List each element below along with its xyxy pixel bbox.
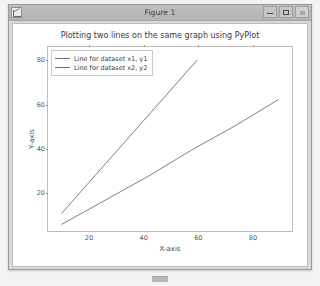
x-axis-tick-mark (253, 45, 254, 47)
legend-line-swatch-2 (55, 67, 70, 68)
legend-line-swatch-1 (55, 58, 70, 59)
window-controls (263, 6, 309, 18)
x-axis-tick-mark (198, 45, 199, 47)
x-axis-tick-label: 40 (140, 234, 148, 242)
legend-label-1: Line for dataset x1, y1 (74, 55, 147, 63)
x-axis-tick-mark (144, 45, 145, 47)
minimize-button[interactable] (263, 6, 277, 18)
legend-label-2: Line for dataset x2, y2 (74, 64, 147, 72)
y-axis-tick-label: 20 (37, 189, 45, 197)
x-axis-tick-label: 80 (249, 234, 257, 242)
x-axis-tick-label: 60 (194, 234, 202, 242)
y-axis-label: Y-axis (28, 129, 36, 149)
chart-title: Plotting two lines on the same graph usi… (13, 31, 307, 40)
y-axis-tick-label: 40 (37, 145, 45, 153)
figure-canvas: Plotting two lines on the same graph usi… (12, 23, 308, 267)
window-titlebar[interactable]: Figure 1 (9, 5, 311, 21)
chart-legend: Line for dataset x1, y1 Line for dataset… (51, 50, 153, 76)
close-button[interactable] (295, 6, 309, 18)
figure-window: Figure 1 Plotting two lines on the same … (8, 4, 312, 270)
x-axis-tick-label: 20 (85, 234, 93, 242)
x-axis-tick-mark (89, 45, 90, 47)
legend-item: Line for dataset x2, y2 (55, 63, 147, 72)
desktop-background: Figure 1 Plotting two lines on the same … (0, 0, 320, 286)
legend-item: Line for dataset x1, y1 (55, 54, 147, 63)
data-line-1 (62, 60, 198, 213)
y-axis-tick-mark (46, 60, 48, 61)
figure-taskbar-entry[interactable] (152, 276, 168, 282)
y-axis-tick-label: 80 (37, 56, 45, 64)
y-axis-tick-mark (46, 149, 48, 150)
data-line-2 (62, 100, 279, 225)
y-axis-tick-label: 60 (37, 101, 45, 109)
maximize-button[interactable] (279, 6, 293, 18)
y-axis-tick-mark (46, 193, 48, 194)
x-axis-label: X-axis (47, 245, 293, 253)
y-axis-tick-mark (46, 105, 48, 106)
